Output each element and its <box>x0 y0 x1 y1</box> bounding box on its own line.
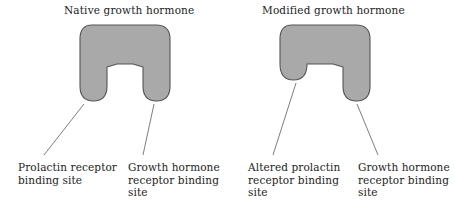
native-prolactin-leader-line <box>44 104 84 155</box>
growth-hormone-comparison-figure: Native growth hormone Modified growth ho… <box>0 0 455 205</box>
modified-prolactin-leader-line <box>273 83 296 155</box>
native-growth-hormone-leader-line <box>143 104 154 155</box>
caption-growth-hormone-receptor-binding-site-left: Growth hormone receptor binding site <box>128 161 232 199</box>
caption-growth-hormone-receptor-binding-site-right: Growth hormone receptor binding site <box>358 161 455 199</box>
caption-altered-prolactin-receptor-binding-site: Altered prolactin receptor binding site <box>248 161 356 199</box>
caption-prolactin-receptor-binding-site: Prolactin receptor binding site <box>18 161 128 186</box>
native-hormone-shape <box>80 25 170 101</box>
modified-growth-hormone-leader-line <box>357 104 378 155</box>
